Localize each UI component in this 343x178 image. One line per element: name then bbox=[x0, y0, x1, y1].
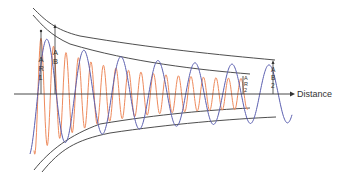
svg-text:R: R bbox=[39, 64, 45, 73]
wave-attenuation-diagram: Distance A R 1 A B A R 2 A B 2 bbox=[0, 0, 343, 178]
red-wave bbox=[34, 38, 248, 154]
svg-text:2: 2 bbox=[244, 87, 247, 93]
blue-envelope-bottom bbox=[42, 117, 276, 172]
svg-text:B: B bbox=[271, 74, 275, 81]
blue-envelope-top bbox=[33, 8, 275, 60]
red-envelope-top bbox=[33, 15, 250, 74]
ab2-label: A B 2 bbox=[271, 66, 276, 89]
svg-text:A: A bbox=[39, 55, 44, 64]
svg-text:2: 2 bbox=[271, 82, 275, 89]
ab2-arrow-icon bbox=[272, 60, 275, 64]
ab1-label: A B bbox=[53, 48, 58, 66]
svg-text:1: 1 bbox=[39, 73, 43, 82]
distance-axis-label: Distance bbox=[297, 89, 332, 99]
svg-text:B: B bbox=[53, 57, 58, 66]
axis-arrowhead-icon bbox=[290, 92, 295, 97]
ar2-label: A R 2 bbox=[244, 75, 248, 93]
svg-text:A: A bbox=[53, 48, 58, 57]
svg-text:A: A bbox=[271, 66, 276, 73]
ar1-marker-dot-icon bbox=[40, 30, 42, 32]
